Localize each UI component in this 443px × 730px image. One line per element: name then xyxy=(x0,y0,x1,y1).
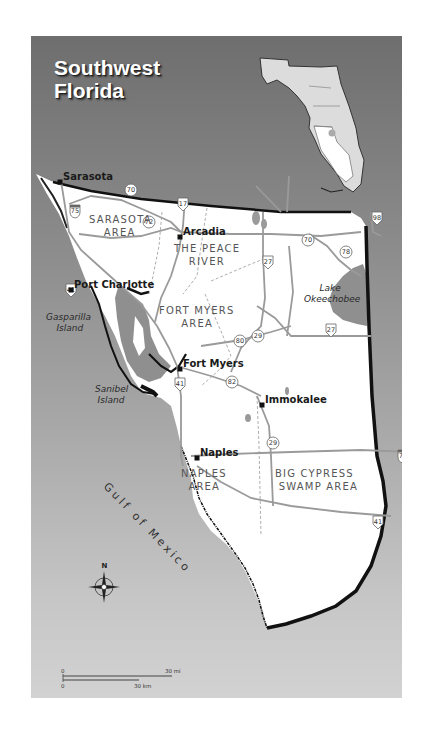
city-marker-icon xyxy=(58,180,63,185)
highway-number: 98 xyxy=(373,214,381,222)
area-label-line-2: AREA xyxy=(181,318,213,329)
highway-shield-82: 82 xyxy=(226,376,238,388)
area-label-line-1: THE PEACE xyxy=(173,243,240,254)
water-label-line-1: Lake xyxy=(320,283,342,293)
city-marker-icon xyxy=(178,367,183,372)
highway-number: 41 xyxy=(374,518,382,526)
scale-km-end: 30 km xyxy=(134,683,151,689)
highway-number: 78 xyxy=(342,248,350,256)
city-label: Sarasota xyxy=(63,171,113,182)
map-frame: Southwest Florida xyxy=(31,36,402,698)
highway-shield-78: 78 xyxy=(340,246,352,258)
highway-number: 27 xyxy=(327,326,335,334)
highway-number: 29 xyxy=(269,439,277,447)
highway-number: 41 xyxy=(176,380,184,388)
city-label: Port Charlotte xyxy=(74,279,154,290)
city-marker-icon xyxy=(69,288,74,293)
city-marker-icon xyxy=(178,235,183,240)
city-label: Arcadia xyxy=(183,226,226,237)
highway-number: 80 xyxy=(236,337,244,345)
map-canvas: 7570177270987827412927804182297541 Saras… xyxy=(31,36,402,698)
highway-shield-70: 70 xyxy=(302,234,314,246)
highway-number: 75 xyxy=(71,207,79,215)
area-label-line-1: SARASOTA xyxy=(89,214,152,225)
water-label: GasparillaIsland xyxy=(46,312,91,333)
highway-number: 27 xyxy=(264,258,272,266)
city-sarasota: Sarasota xyxy=(58,171,113,185)
area-label-line-2: AREA xyxy=(188,481,220,492)
water-label-line-2: Island xyxy=(56,323,83,333)
highway-number: 29 xyxy=(254,332,262,340)
water-label-line-2: Okeechobee xyxy=(304,294,361,304)
area-label-line-2: RIVER xyxy=(189,256,225,267)
water-label: SanibelIsland xyxy=(95,384,129,405)
area-label-line-1: BIG CYPRESS xyxy=(275,468,354,479)
florida-inset-map xyxy=(260,58,364,192)
highway-number: 75 xyxy=(399,452,402,460)
area-label-line-2: AREA xyxy=(104,227,136,238)
area-label-line-1: NAPLES xyxy=(181,468,227,479)
scale-mi-end: 30 mi xyxy=(165,668,181,674)
water-label-line-1: Gasparilla xyxy=(46,312,91,322)
water-label-line-1: Sanibel xyxy=(95,384,129,394)
highway-shield-80: 80 xyxy=(234,335,246,347)
city-label: Immokalee xyxy=(265,394,327,405)
highway-shield-29: 29 xyxy=(252,330,264,342)
highway-number: 82 xyxy=(228,378,236,386)
highway-shield-75: 75 xyxy=(70,205,80,218)
highway-number: 70 xyxy=(304,236,312,244)
water-label-line-2: Island xyxy=(98,395,125,405)
city-marker-icon xyxy=(260,403,265,408)
highway-number: 70 xyxy=(127,186,135,194)
area-label-line-1: FORT MYERS xyxy=(159,305,234,316)
scale-bar: 0 30 mi 0 30 km xyxy=(61,668,181,689)
city-marker-icon xyxy=(195,456,200,461)
highway-shield-29: 29 xyxy=(267,437,279,449)
scale-mi-start: 0 xyxy=(61,668,65,674)
highway-shield-70: 70 xyxy=(125,184,137,196)
compass-north-label: N xyxy=(102,562,108,570)
highway-shield-98: 98 xyxy=(372,212,382,225)
city-label: Naples xyxy=(200,447,238,458)
area-label-line-2: SWAMP AREA xyxy=(279,481,358,492)
city-label: Fort Myers xyxy=(183,358,244,369)
highway-number: 17 xyxy=(179,200,187,208)
compass-rose-icon: N xyxy=(88,562,120,603)
gulf-of-mexico-label: Gulf of Mexico xyxy=(101,480,194,576)
scale-km-start: 0 xyxy=(61,683,65,689)
highway-shield-75: 75 xyxy=(398,450,402,463)
